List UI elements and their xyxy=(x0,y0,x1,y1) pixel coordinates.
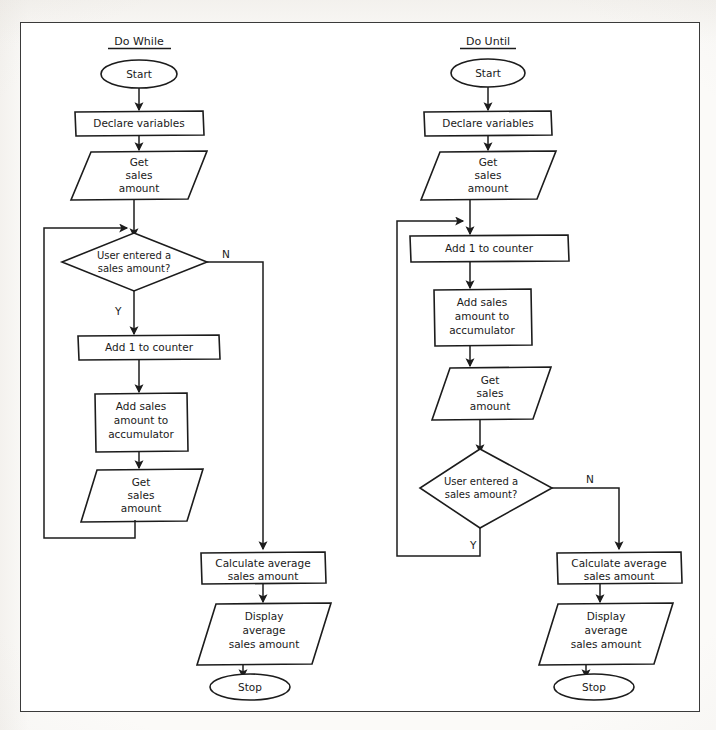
node-calculate-average-line2-right: sales amount xyxy=(584,570,655,582)
node-get-sales-amount-1-line3: amount xyxy=(119,182,160,194)
node-calculate-average-line1-right: Calculate average xyxy=(571,557,666,569)
node-accumulate-line1-right: Add sales xyxy=(457,296,507,308)
node-decision-user-entered-diamond[interactable] xyxy=(62,233,207,291)
node-display-average-line2-right: average xyxy=(585,624,628,636)
node-get-sales-amount-1-line1: Get xyxy=(130,156,149,168)
flowchart-title-do-until: Do Until xyxy=(466,35,510,48)
node-accumulate-line3-right: accumulator xyxy=(449,324,515,336)
node-get-sales-amount-2-line2: sales xyxy=(128,489,155,501)
node-stop-label: Stop xyxy=(238,681,262,693)
flowchart-canvas: Do While Start Declare variables Get sal… xyxy=(0,0,716,730)
node-accumulate-line2-right: amount to xyxy=(455,310,509,322)
node-get-sales-amount-1-line1-right: Get xyxy=(479,156,498,168)
node-calculate-average-line1: Calculate average xyxy=(215,557,310,569)
node-add-1-to-counter-label-right: Add 1 to counter xyxy=(445,242,534,254)
edge-decision-no-to-calc xyxy=(207,262,263,549)
node-display-average-line1-right: Display xyxy=(587,610,626,622)
edge-decision-no-to-calc-right xyxy=(552,488,619,549)
node-get-sales-amount-2-line1-right: Get xyxy=(481,374,500,386)
page-canvas: Do While Start Declare variables Get sal… xyxy=(0,0,716,730)
node-display-average-line1: Display xyxy=(245,610,284,622)
branch-label-yes-left: Y xyxy=(114,305,122,317)
flowchart-title-do-while: Do While xyxy=(114,35,164,48)
node-get-sales-amount-1-line2-right: sales xyxy=(475,169,502,181)
node-get-sales-amount-2-line3-right: amount xyxy=(470,400,511,412)
node-get-sales-amount-1-line3-right: amount xyxy=(468,182,509,194)
node-display-average-line3-right: sales amount xyxy=(571,638,642,650)
node-decision-line1: User entered a xyxy=(97,250,171,261)
node-accumulate-line3: accumulator xyxy=(108,428,174,440)
node-add-1-to-counter-label: Add 1 to counter xyxy=(105,341,194,353)
node-stop-label-right: Stop xyxy=(582,681,606,693)
node-decision-line2-right: sales amount? xyxy=(445,489,518,500)
node-get-sales-amount-1-line2: sales xyxy=(126,169,153,181)
branch-label-no-left: N xyxy=(222,248,230,260)
flowchart-do-until: Do Until Start Declare variables Get sal… xyxy=(397,35,682,700)
node-declare-variables-label-right: Declare variables xyxy=(442,117,533,129)
flowchart-do-while: Do While Start Declare variables Get sal… xyxy=(44,35,331,700)
node-start-label: Start xyxy=(126,68,152,80)
node-accumulate-line1: Add sales xyxy=(116,400,166,412)
node-get-sales-amount-2-line2-right: sales xyxy=(477,387,504,399)
node-display-average-line2: average xyxy=(243,624,286,636)
node-start-label-right: Start xyxy=(475,67,501,79)
branch-label-yes-right: Y xyxy=(469,539,477,551)
node-decision-line2: sales amount? xyxy=(98,263,171,274)
node-declare-variables-label: Declare variables xyxy=(93,117,184,129)
node-calculate-average-line2: sales amount xyxy=(228,570,299,582)
node-get-sales-amount-2-line1: Get xyxy=(132,476,151,488)
node-get-sales-amount-2-line3: amount xyxy=(121,502,162,514)
branch-label-no-right: N xyxy=(586,473,594,485)
node-display-average-line3: sales amount xyxy=(229,638,300,650)
node-decision-line1-right: User entered a xyxy=(444,476,518,487)
node-accumulate-line2: amount to xyxy=(114,414,168,426)
